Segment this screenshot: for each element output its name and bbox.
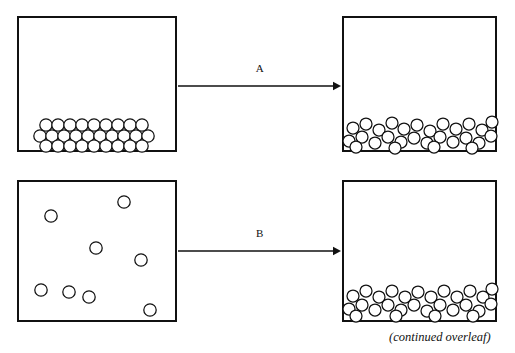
arrow-b — [0, 0, 515, 353]
arrow-b-head-icon — [333, 247, 341, 255]
figure-caption: (continued overleaf) — [389, 330, 491, 345]
figure-canvas: AB (continued overleaf) — [0, 0, 515, 353]
arrow-b-label: B — [240, 227, 280, 239]
